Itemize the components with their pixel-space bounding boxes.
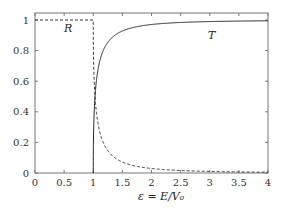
x-tick-label: 2.5: [173, 177, 189, 188]
x-axis-label: ε = E/V₀: [138, 190, 185, 203]
plot-frame: [35, 13, 268, 173]
tick-marks: [35, 13, 268, 173]
y-tick-label: 0: [23, 168, 29, 179]
series-t-curve: [93, 21, 268, 173]
x-tick-label: 0: [32, 177, 38, 188]
y-tick-label: 0.2: [13, 137, 29, 148]
x-tick-label: 3.5: [231, 177, 247, 188]
x-tick-label: 4: [265, 177, 271, 188]
y-tick-label: 1: [23, 15, 29, 26]
y-tick-label: 0.4: [13, 106, 29, 117]
x-tick-label: 1.5: [114, 177, 130, 188]
x-tick-label: 0.5: [56, 177, 72, 188]
tick-labels: 00.511.522.533.5400.20.40.60.81: [13, 15, 271, 189]
y-tick-label: 0.6: [13, 76, 29, 87]
x-tick-label: 3: [207, 177, 213, 188]
x-tick-label: 1: [90, 177, 96, 188]
series-r-curve: [35, 20, 268, 172]
series-t-label: T: [208, 29, 217, 42]
rt-chart: 00.511.522.533.5400.20.40.60.81 R T ε = …: [0, 0, 281, 209]
series-r-label: R: [63, 22, 72, 35]
y-tick-label: 0.8: [13, 45, 29, 56]
x-tick-label: 2: [148, 177, 154, 188]
